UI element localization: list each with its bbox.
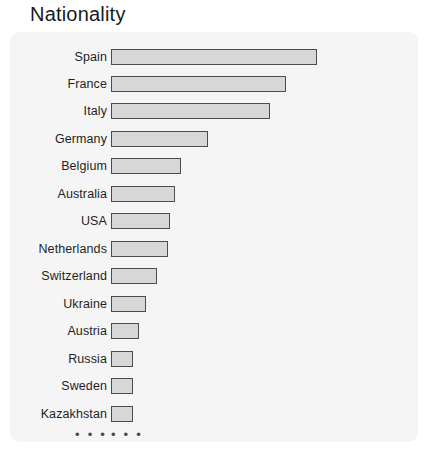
bar-australia — [111, 186, 175, 202]
bar-netherlands — [111, 241, 168, 257]
bar-category-label: Netherlands — [0, 238, 107, 260]
bar-row: Sweden — [0, 375, 429, 397]
bar-sweden — [111, 378, 133, 394]
bar-row: Kazakhstan — [0, 403, 429, 425]
bar-row: Italy — [0, 100, 429, 122]
bar-row: Netherlands — [0, 238, 429, 260]
bar-germany — [111, 131, 208, 147]
bar-category-label: Switzerland — [0, 265, 107, 287]
bar-italy — [111, 103, 270, 119]
bar-rows-container: SpainFranceItalyGermanyBelgiumAustraliaU… — [0, 0, 429, 455]
bar-row: Germany — [0, 128, 429, 150]
bar-category-label: USA — [0, 210, 107, 232]
bar-row: USA — [0, 210, 429, 232]
bar-russia — [111, 351, 133, 367]
bar-category-label: Sweden — [0, 375, 107, 397]
bar-category-label: Spain — [0, 46, 107, 68]
bar-usa — [111, 213, 170, 229]
bar-ukraine — [111, 296, 146, 312]
bar-row: France — [0, 73, 429, 95]
bar-category-label: Belgium — [0, 155, 107, 177]
truncation-row: • • •• • • — [0, 424, 429, 446]
bar-switzerland — [111, 268, 157, 284]
bar-france — [111, 76, 286, 92]
bar-category-label: France — [0, 73, 107, 95]
bar-belgium — [111, 158, 181, 174]
bar-spain — [111, 49, 317, 65]
nationality-bar-chart: Nationality SpainFranceItalyGermanyBelgi… — [0, 0, 429, 455]
bar-kazakhstan — [111, 406, 133, 422]
bar-category-label: Austria — [0, 320, 107, 342]
bar-row: Australia — [0, 183, 429, 205]
bar-category-label: Kazakhstan — [0, 403, 107, 425]
bar-category-label: Germany — [0, 128, 107, 150]
bar-row: Russia — [0, 348, 429, 370]
bar-category-label: Ukraine — [0, 293, 107, 315]
bar-row: Spain — [0, 46, 429, 68]
bar-row: Ukraine — [0, 293, 429, 315]
truncation-bar-ellipsis: • • • — [111, 424, 143, 446]
bar-row: Belgium — [0, 155, 429, 177]
truncation-label-ellipsis: • • • — [0, 424, 107, 446]
bar-row: Austria — [0, 320, 429, 342]
bar-category-label: Italy — [0, 100, 107, 122]
bar-row: Switzerland — [0, 265, 429, 287]
bar-austria — [111, 323, 139, 339]
bar-category-label: Russia — [0, 348, 107, 370]
bar-category-label: Australia — [0, 183, 107, 205]
